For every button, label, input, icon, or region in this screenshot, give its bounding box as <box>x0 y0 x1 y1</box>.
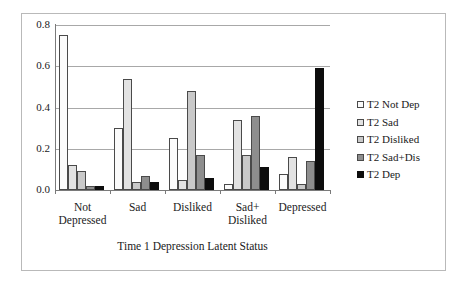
bar <box>260 167 269 190</box>
y-axis-tick-label: 0.0 <box>22 184 50 195</box>
bar <box>196 155 205 190</box>
bar <box>178 180 187 190</box>
legend-label: T2 Disliked <box>367 134 419 145</box>
bar <box>123 79 132 190</box>
x-axis-line <box>55 190 331 191</box>
bar <box>132 182 141 190</box>
y-axis-tick-label: 0.8 <box>22 19 50 30</box>
bar <box>86 186 95 190</box>
bar <box>242 155 251 190</box>
bar <box>77 171 86 190</box>
legend-label: T2 Sad+Dis <box>367 152 420 163</box>
legend-swatch-icon <box>357 136 364 143</box>
x-axis-title: Time 1 Depression Latent Status <box>55 240 330 253</box>
y-axis-tick-label: 0.4 <box>22 102 50 113</box>
legend-swatch-icon <box>357 154 364 161</box>
bar-group <box>275 25 330 190</box>
y-axis-tick-label: 0.6 <box>22 60 50 71</box>
y-axis-tick-label: 0.2 <box>22 143 50 154</box>
chart-legend: T2 Not DepT2 SadT2 DislikedT2 Sad+DisT2 … <box>357 96 443 184</box>
category-label-line: Depressed <box>38 214 128 227</box>
legend-swatch-icon <box>357 171 364 178</box>
legend-label: T2 Dep <box>367 169 400 180</box>
y-axis-tick-labels: 0.00.20.40.60.8 <box>22 0 50 290</box>
bar-group <box>110 25 165 190</box>
bar <box>224 184 233 190</box>
bar <box>95 186 104 190</box>
bar <box>150 182 159 190</box>
bar <box>233 120 242 190</box>
legend-label: T2 Sad <box>367 117 398 128</box>
chart-figure: 0.00.20.40.60.8 NotDepressedSadDislikedS… <box>0 0 465 290</box>
legend-item: T2 Sad <box>357 114 443 132</box>
x-axis-tick <box>110 190 111 194</box>
bar <box>288 157 297 190</box>
legend-item: T2 Not Dep <box>357 96 443 114</box>
legend-item: T2 Disliked <box>357 131 443 149</box>
bar <box>297 184 306 190</box>
x-axis-tick <box>55 190 56 194</box>
bar-group <box>55 25 110 190</box>
bar <box>251 116 260 190</box>
x-axis-tick <box>275 190 276 194</box>
bar-group <box>165 25 220 190</box>
x-axis-tick <box>330 190 331 194</box>
bar <box>315 68 324 190</box>
bar <box>141 176 150 190</box>
legend-label: T2 Not Dep <box>367 99 420 110</box>
bar <box>169 138 178 190</box>
bar <box>187 91 196 190</box>
legend-item: T2 Dep <box>357 166 443 184</box>
legend-item: T2 Sad+Dis <box>357 149 443 167</box>
x-axis-category-label: Depressed <box>258 201 348 214</box>
bar <box>114 128 123 190</box>
category-label-line: Disliked <box>203 214 293 227</box>
bar <box>205 178 214 190</box>
bar <box>59 35 68 190</box>
bar <box>68 165 77 190</box>
legend-swatch-icon <box>357 119 364 126</box>
category-label-line: Depressed <box>258 201 348 214</box>
legend-swatch-icon <box>357 101 364 108</box>
bar <box>279 174 288 191</box>
x-axis-tick <box>220 190 221 194</box>
x-axis-tick <box>165 190 166 194</box>
bar-group <box>220 25 275 190</box>
bar <box>306 161 315 190</box>
